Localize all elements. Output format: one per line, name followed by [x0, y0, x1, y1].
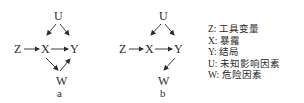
edge-x-w: [46, 58, 58, 70]
node-w: W: [158, 74, 170, 88]
node-w: W: [56, 74, 68, 88]
edge-y-w: [164, 58, 175, 70]
node-x: X: [41, 42, 50, 56]
node-u: U: [159, 9, 168, 23]
legend-item-x: X: 暴露: [208, 36, 280, 48]
legend: Z: 工具变量 X: 暴露 Y: 结局 U: 未知影响因素 W: 危险因素: [208, 24, 280, 82]
node-y: Y: [174, 42, 183, 56]
legend-item-y: Y: 结局: [208, 47, 280, 59]
node-y: Y: [70, 42, 79, 56]
legend-item-z: Z: 工具变量: [208, 24, 280, 36]
caption-b: b: [160, 87, 166, 99]
edge-u-x: [151, 24, 161, 35]
node-x: X: [145, 42, 154, 56]
node-u: U: [54, 9, 63, 23]
legend-item-u: U: 未知影响因素: [208, 59, 280, 71]
edge-u-x: [47, 24, 56, 35]
edge-u-y: [60, 24, 69, 35]
edge-w-y: [60, 59, 70, 71]
edge-u-y: [165, 24, 174, 35]
node-z: Z: [14, 42, 21, 56]
diagram-a: U Z X Y W a: [14, 9, 79, 99]
diagram-b: U Z X Y W b: [119, 9, 183, 99]
node-z: Z: [119, 42, 126, 56]
legend-item-w: W: 危险因素: [208, 70, 280, 82]
caption-a: a: [57, 87, 62, 99]
